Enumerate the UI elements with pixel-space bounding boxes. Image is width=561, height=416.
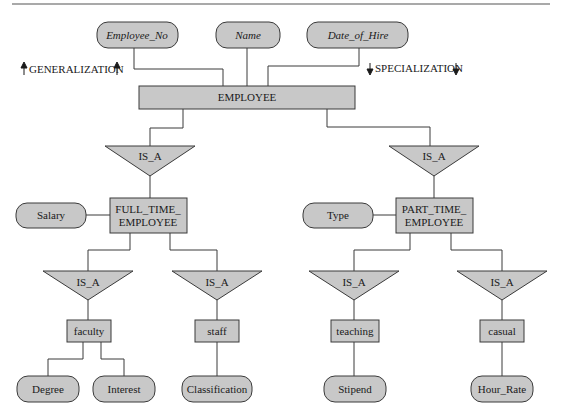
connector-parttime-isa-teaching bbox=[354, 233, 410, 271]
up-arrow-icon bbox=[21, 62, 27, 75]
connector-fulltime-isa-faculty bbox=[88, 233, 130, 271]
connector-faculty-degree bbox=[48, 342, 83, 376]
entity-employee-label: EMPLOYEE bbox=[218, 91, 277, 103]
generalization-label: GENERALIZATION bbox=[29, 63, 124, 75]
er-diagram: Employee_No Name Date_of_Hire EMPLOYEE I… bbox=[0, 0, 561, 416]
isa-label: IS_A bbox=[205, 276, 228, 288]
attribute-date-of-hire-label: Date_of_Hire bbox=[327, 29, 389, 41]
connector-fulltime-isa-staff bbox=[170, 233, 217, 271]
isa-label: IS_A bbox=[342, 276, 365, 288]
attribute-degree-label: Degree bbox=[32, 383, 64, 395]
entity-faculty-label: faculty bbox=[74, 325, 105, 337]
attribute-employee-no-label: Employee_No bbox=[105, 29, 168, 41]
attribute-interest-label: Interest bbox=[108, 383, 141, 395]
attribute-salary-label: Salary bbox=[37, 209, 66, 221]
entity-full-time-label-1: FULL_TIME_ bbox=[115, 203, 181, 215]
isa-label: IS_A bbox=[422, 150, 445, 162]
connector-faculty-interest bbox=[101, 342, 124, 376]
connector-employee-isa-right bbox=[327, 109, 430, 146]
attribute-type-label: Type bbox=[327, 209, 349, 221]
attribute-classification-label: Classification bbox=[187, 383, 248, 395]
connector-employee-no bbox=[134, 48, 223, 86]
entity-part-time-label-1: PART_TIME_ bbox=[402, 203, 467, 215]
down-arrow-icon bbox=[367, 63, 373, 75]
entity-part-time-label-2: EMPLOYEE bbox=[405, 216, 464, 228]
isa-label: IS_A bbox=[138, 150, 161, 162]
entity-full-time-label-2: EMPLOYEE bbox=[119, 216, 178, 228]
isa-label: IS_A bbox=[490, 276, 513, 288]
specialization-label: SPECIALIZATION bbox=[375, 62, 463, 74]
connector-date-of-hire bbox=[268, 48, 359, 86]
entity-staff-label: staff bbox=[207, 325, 227, 337]
attribute-hour-rate-label: Hour_Rate bbox=[478, 383, 526, 395]
entity-teaching-label: teaching bbox=[336, 325, 374, 337]
entity-casual-label: casual bbox=[488, 325, 515, 337]
connector-parttime-isa-casual bbox=[451, 233, 502, 271]
attribute-stipend-label: Stipend bbox=[338, 383, 372, 395]
connector-employee-isa-left bbox=[150, 109, 183, 146]
isa-label: IS_A bbox=[76, 276, 99, 288]
attribute-name-label: Name bbox=[234, 29, 261, 41]
